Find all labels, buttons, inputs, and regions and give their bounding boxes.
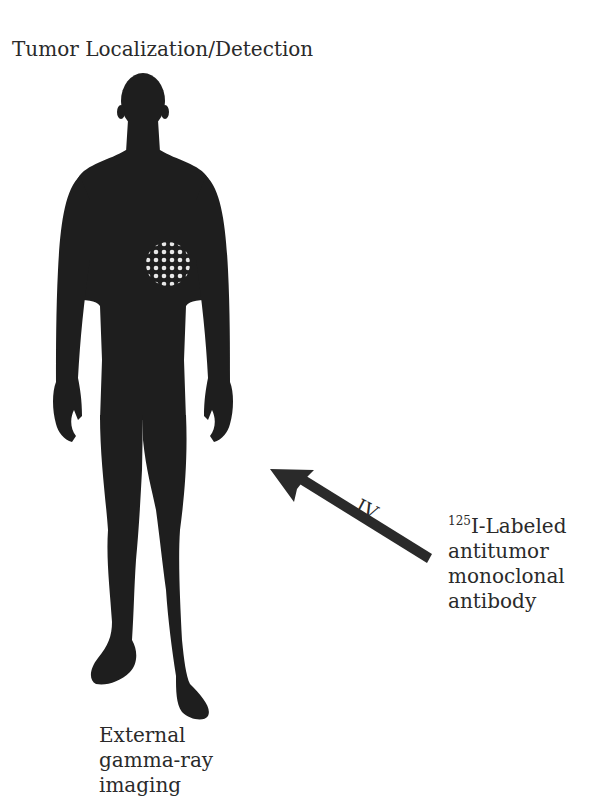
diagram-canvas — [0, 0, 590, 802]
antibody-line-2: antitumor — [448, 539, 566, 564]
antibody-line-1: 125I-Labeled — [448, 509, 566, 539]
antibody-line-4: antibody — [448, 589, 566, 614]
antibody-line-3: monoclonal — [448, 564, 566, 589]
isotope-superscript: 125 — [448, 514, 471, 528]
imaging-line-1: External — [99, 723, 213, 748]
imaging-label: External gamma-ray imaging — [99, 723, 213, 798]
imaging-line-3: imaging — [99, 773, 213, 798]
imaging-line-2: gamma-ray — [99, 748, 213, 773]
iv-arrow — [270, 469, 432, 563]
antibody-label: 125I-Labeled antitumor monoclonal antibo… — [448, 509, 566, 614]
figure-title: Tumor Localization/Detection — [12, 37, 313, 62]
human-silhouette — [53, 73, 233, 719]
